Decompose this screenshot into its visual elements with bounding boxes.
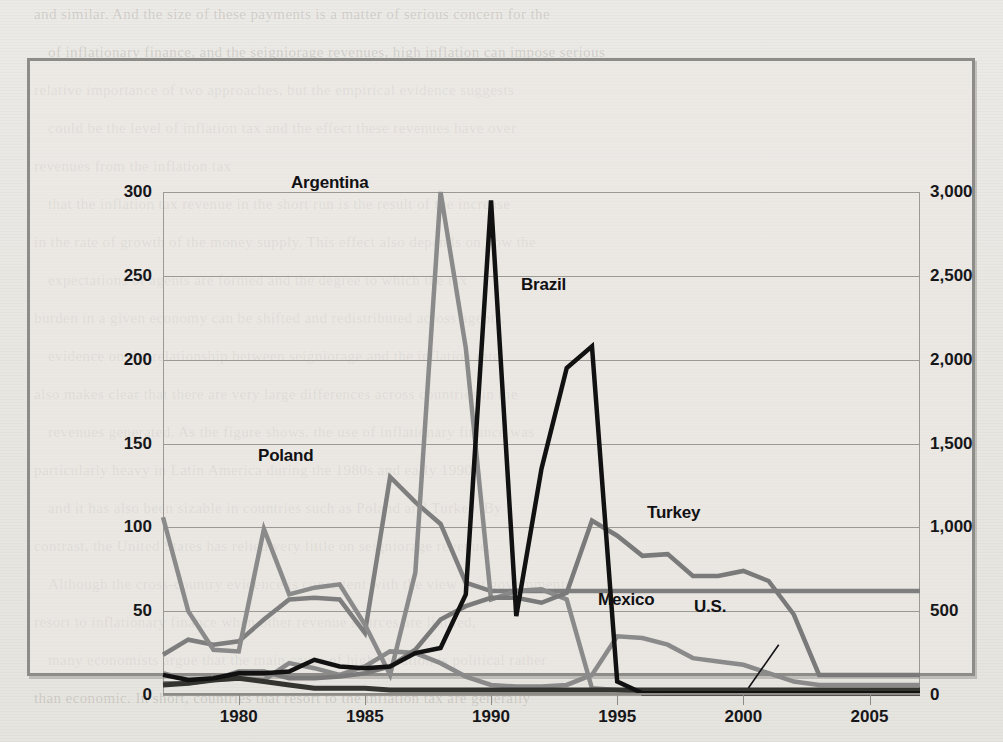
chart-frame: 050100150200250300 05001,0001,5002,0002,… xyxy=(27,58,975,676)
series-label-brazil: Brazil xyxy=(521,275,566,295)
x-tick-mark xyxy=(617,695,618,705)
x-tick-mark xyxy=(870,695,871,705)
x-tick-mark xyxy=(365,695,366,705)
x-tick-mark xyxy=(491,695,492,705)
x-tick-label: 1990 xyxy=(472,707,510,727)
y-left-tick-label: 50 xyxy=(133,601,152,621)
y-left-tick-label: 0 xyxy=(143,685,152,705)
x-tick-label: 2000 xyxy=(724,707,762,727)
y-right-tick-label: 1,000 xyxy=(930,517,973,537)
y-left-tick-label: 150 xyxy=(124,434,152,454)
x-tick-label: 2005 xyxy=(851,707,889,727)
y-left-tick-label: 250 xyxy=(124,266,152,286)
series-line-argentina xyxy=(163,192,920,693)
x-tick-label: 1995 xyxy=(598,707,636,727)
y-axis-left-labels: 050100150200250300 xyxy=(70,192,152,695)
y-right-tick-label: 1,500 xyxy=(930,434,973,454)
series-label-turkey: Turkey xyxy=(647,503,700,523)
series-line-turkey xyxy=(163,521,920,684)
x-tick-label: 1985 xyxy=(346,707,384,727)
x-axis-tick-marks xyxy=(163,695,920,707)
y-right-tick-label: 2,500 xyxy=(930,266,973,286)
plot-area xyxy=(163,192,920,695)
x-axis-labels: 198019851990199520002005 xyxy=(163,707,920,737)
series-label-poland: Poland xyxy=(258,446,313,466)
y-right-tick-label: 0 xyxy=(930,685,939,705)
x-tick-label: 1980 xyxy=(220,707,258,727)
y-right-tick-label: 500 xyxy=(930,601,958,621)
x-tick-mark xyxy=(743,695,744,705)
y-axis-right-labels: 05001,0001,5002,0002,5003,000 xyxy=(930,192,1003,695)
y-right-tick-label: 3,000 xyxy=(930,182,973,202)
y-right-tick-label: 2,000 xyxy=(930,350,973,370)
series-label-argentina: Argentina xyxy=(291,173,369,193)
y-left-tick-label: 300 xyxy=(124,182,152,202)
series-label-mexico: Mexico xyxy=(598,590,654,610)
y-left-tick-label: 100 xyxy=(124,517,152,537)
x-tick-mark xyxy=(239,695,240,705)
y-left-tick-label: 200 xyxy=(124,350,152,370)
series-lines xyxy=(163,192,920,695)
series-label-us: U.S. xyxy=(694,597,726,617)
